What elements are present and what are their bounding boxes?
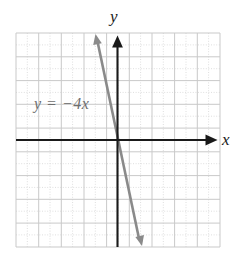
graph-figure: y x y = −4x [0,0,237,258]
x-axis-label: x [222,131,230,148]
y-axis-label: y [110,8,118,25]
coordinate-plane [0,0,237,258]
equation-annotation: y = −4x [34,96,89,112]
